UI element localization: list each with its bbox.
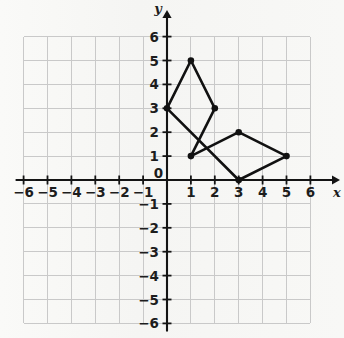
vertex-point[interactable] — [235, 129, 242, 136]
x-axis-label: x — [332, 185, 341, 200]
x-axis-tick-label: 3 — [234, 184, 243, 200]
y-axis-tick-label: −5 — [138, 292, 159, 308]
x-axis-arrowhead — [332, 175, 340, 184]
x-axis-tick-label: 5 — [282, 184, 291, 200]
y-axis-tick-label: −4 — [138, 268, 159, 284]
x-axis-tick-label: −6 — [13, 184, 34, 200]
x-axis-tick-label: −3 — [85, 184, 106, 200]
y-axis-tick-label: 1 — [150, 148, 159, 164]
vertex-point[interactable] — [188, 153, 195, 160]
y-axis-tick-label: 3 — [150, 100, 159, 116]
y-axis-tick-label: −2 — [138, 220, 159, 236]
coordinate-plane-figure: −6−5−4−3−2−11234560−6−5−4−3−2−1123456 xy — [0, 0, 344, 338]
vertex-point[interactable] — [188, 57, 195, 64]
x-axis-tick-label: 4 — [258, 184, 267, 200]
x-axis-tick-label: 1 — [186, 184, 195, 200]
plotted-polygon[interactable] — [167, 61, 287, 181]
y-axis-label: y — [153, 1, 163, 16]
y-axis-arrowhead — [162, 10, 171, 18]
vertex-point[interactable] — [164, 105, 171, 112]
origin-label: 0 — [154, 165, 163, 181]
y-axis-tick-label: −3 — [138, 244, 159, 260]
y-axis-tick-label: 6 — [150, 29, 159, 45]
x-axis-tick-label: 2 — [210, 184, 219, 200]
x-axis-tick-label: −5 — [37, 184, 58, 200]
y-axis-tick-label: 4 — [150, 76, 159, 92]
y-axis-tick-label: 5 — [150, 53, 159, 69]
vertex-point[interactable] — [283, 153, 290, 160]
x-axis-tick-label: −4 — [61, 184, 82, 200]
coordinate-plot: −6−5−4−3−2−11234560−6−5−4−3−2−1123456 xy — [0, 0, 344, 338]
x-axis-tick-label: −2 — [109, 184, 130, 200]
vertex-point[interactable] — [235, 177, 242, 184]
vertex-point[interactable] — [212, 105, 219, 112]
x-axis-tick-label: 6 — [306, 184, 315, 200]
axis-name-labels: xy — [153, 1, 341, 200]
polygon-outline[interactable] — [167, 61, 287, 181]
y-axis-tick-label: 2 — [150, 124, 159, 140]
y-axis-tick-label: −1 — [138, 196, 159, 212]
axes — [16, 10, 340, 331]
y-axis-tick-label: −6 — [138, 315, 159, 331]
